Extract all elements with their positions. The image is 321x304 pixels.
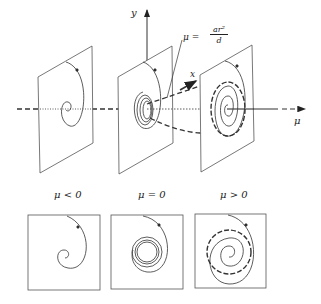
panel-mu-negative	[38, 46, 93, 173]
formula-lhs: μ =	[183, 33, 199, 42]
panel-mu-positive	[200, 45, 254, 172]
mu-axis-label: μ	[294, 116, 301, 126]
panel-label-zero: μ = 0	[138, 190, 166, 200]
hopf-bifurcation-figure: y x μ μ = ar² d μ < 0 μ = 0 μ > 0	[0, 0, 321, 304]
x-axis-label: x	[190, 70, 195, 79]
bottom-panel-1	[28, 215, 100, 290]
panel-mu-zero	[118, 10, 173, 174]
panel-label-negative: μ < 0	[54, 190, 82, 200]
formula-numerator: ar²	[210, 26, 228, 35]
bottom-panel-2	[111, 215, 183, 289]
bottom-panel-3	[195, 214, 266, 288]
formula-denominator: d	[210, 37, 228, 45]
panel-label-positive: μ > 0	[220, 190, 248, 200]
diagram-canvas	[0, 0, 321, 304]
y-axis-label: y	[131, 8, 137, 18]
